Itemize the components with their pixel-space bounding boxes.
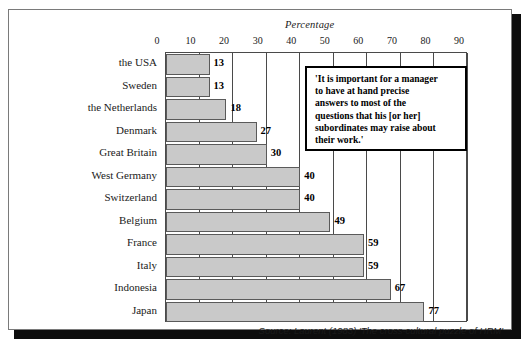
- x-tick-label-30: 30: [253, 35, 263, 46]
- source-note: Source: Laurent (1983) 'The cross-cultur…: [9, 325, 503, 336]
- bar-row: 59: [166, 233, 466, 256]
- bar-value-label: 40: [304, 192, 315, 203]
- bar-west-germany: [166, 167, 300, 188]
- bar-value-label: 67: [395, 282, 406, 293]
- category-label-belgium: Belgium: [7, 214, 157, 226]
- x-tick-label-10: 10: [186, 35, 196, 46]
- figure-page: Percentage 0102030405060708090 the USASw…: [0, 0, 526, 343]
- category-label-switzerland: Switzerland: [7, 191, 157, 203]
- bar-france: [166, 234, 364, 255]
- bar-value-label: 59: [368, 237, 379, 248]
- x-tick-label-70: 70: [387, 35, 397, 46]
- bar-italy: [166, 257, 364, 278]
- bar-indonesia: [166, 279, 391, 300]
- category-label-italy: Italy: [7, 259, 157, 271]
- x-tick-label-80: 80: [420, 35, 430, 46]
- quote-text: 'It is important for a managerto have at…: [315, 73, 458, 146]
- bar-switzerland: [166, 189, 300, 210]
- category-label-france: France: [7, 236, 157, 248]
- bar-sweden: [166, 77, 210, 98]
- quote-line: 'It is important for a manager: [315, 73, 458, 85]
- bar-value-label: 30: [271, 147, 282, 158]
- category-label-the-usa: the USA: [7, 56, 157, 68]
- page-shadow-right: [512, 14, 521, 339]
- quote-line: their work.': [315, 134, 458, 146]
- bar-belgium: [166, 212, 330, 233]
- x-tick-label-40: 40: [286, 35, 296, 46]
- category-label-indonesia: Indonesia: [7, 281, 157, 293]
- quote-line: to have at hand precise: [315, 85, 458, 97]
- bar-row: 59: [166, 256, 466, 279]
- category-label-japan: Japan: [7, 304, 157, 316]
- quote-callout: 'It is important for a managerto have at…: [305, 66, 467, 151]
- bar-value-label: 27: [261, 125, 272, 136]
- quote-line: subordinates may raise about: [315, 122, 458, 134]
- y-axis-category-labels: the USASwedenthe NetherlandsDenmarkGreat…: [9, 52, 157, 322]
- bar-row: 77: [166, 301, 466, 324]
- x-tick-label-0: 0: [155, 35, 160, 46]
- quote-line: answers to most of the: [315, 97, 458, 109]
- figure-card: Percentage 0102030405060708090 the USASw…: [8, 9, 512, 330]
- bar-row: 40: [166, 188, 466, 211]
- x-tick-label-20: 20: [219, 35, 229, 46]
- bar-row: 67: [166, 278, 466, 301]
- chart-axis-title: Percentage: [285, 19, 334, 30]
- bar-value-label: 18: [230, 102, 241, 113]
- quote-line: questions that his [or her]: [315, 110, 458, 122]
- bar-value-label: 59: [368, 260, 379, 271]
- category-label-great-britain: Great Britain: [7, 146, 157, 158]
- x-tick-label-90: 90: [454, 35, 464, 46]
- category-label-sweden: Sweden: [7, 79, 157, 91]
- bar-value-label: 49: [334, 215, 345, 226]
- category-label-denmark: Denmark: [7, 124, 157, 136]
- bar-row: 40: [166, 166, 466, 189]
- bar-great-britain: [166, 144, 267, 165]
- bar-value-label: 13: [214, 57, 225, 68]
- bar-value-label: 13: [214, 80, 225, 91]
- bar-japan: [166, 302, 424, 323]
- bar-denmark: [166, 122, 257, 143]
- gridline-90: [467, 53, 468, 321]
- x-tick-label-50: 50: [320, 35, 330, 46]
- category-label-west-germany: West Germany: [7, 169, 157, 181]
- x-tick-label-60: 60: [353, 35, 363, 46]
- bar-the-netherlands: [166, 99, 226, 120]
- category-label-the-netherlands: the Netherlands: [7, 101, 157, 113]
- bar-value-label: 77: [428, 305, 439, 316]
- bar-row: 49: [166, 211, 466, 234]
- bar-the-usa: [166, 54, 210, 75]
- bar-value-label: 40: [304, 170, 315, 181]
